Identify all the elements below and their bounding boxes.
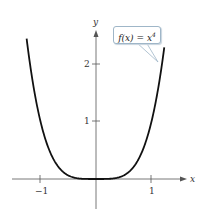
function-label-callout: f(x) = x4 [113,26,161,44]
x-axis-label: x [190,174,195,184]
y-axis-label: y [92,17,99,27]
function-graph: x y −1 1 1 2 f(x) = x4 [0,0,204,221]
callout-text: f(x) = x [118,33,152,43]
y-tick-label-2: 2 [84,59,90,69]
y-axis-arrow-icon [94,30,99,37]
plot-area: x y −1 1 1 2 [0,0,204,221]
y-tick-label-1: 1 [84,116,90,126]
callout-exponent: 4 [152,31,156,38]
x-tick-label-neg1: −1 [35,186,48,196]
function-curve [27,39,165,179]
x-tick-label-1: 1 [149,186,155,196]
x-axis-arrow-icon [180,177,187,182]
